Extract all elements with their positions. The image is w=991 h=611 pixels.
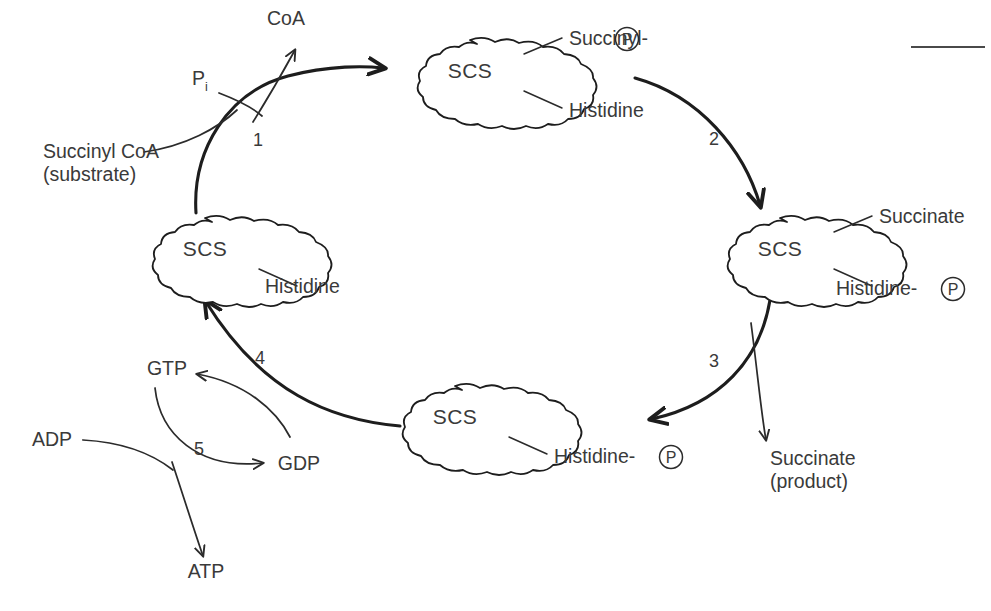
phosphate-letter: P [948, 281, 959, 298]
phosphate-circle-histidine-bottom: P [660, 446, 683, 469]
step-number-3: 3 [709, 351, 719, 371]
succinyl-coa-role-label: (substrate) [43, 163, 136, 185]
step-number-2: 2 [709, 129, 719, 149]
phosphate-letter: P [666, 449, 677, 466]
pi-entry-line [219, 93, 262, 116]
scs-label: SCS [758, 237, 803, 260]
step-number-1: 1 [253, 130, 263, 150]
scs-label: SCS [433, 405, 478, 428]
histidine-phosphate-label-bottom: Histidine- [554, 445, 635, 467]
phosphate-circle-histidine-right: P [942, 278, 965, 301]
succinyl-coa-label: Succinyl CoA [43, 140, 159, 162]
pi-subscript-label: i [205, 80, 208, 94]
atp-release-arrow [172, 462, 203, 556]
histidine-label-top: Histidine [569, 99, 644, 121]
cycle-arc-step-4 [206, 302, 400, 426]
atp-label: ATP [188, 560, 224, 582]
cycle-arc-step-2 [635, 78, 760, 205]
gtp-consumption-arrow [155, 388, 263, 464]
scs-label: SCS [448, 59, 493, 82]
phosphate-letter: P [622, 31, 633, 48]
succinate-label-right: Succinate [879, 205, 965, 227]
gtp-formation-arrow [197, 374, 290, 437]
diagram-canvas: SCS SCS SCS SCS CoA P i Succinyl CoA (su… [0, 0, 991, 611]
succinate-product-label: Succinate [770, 447, 856, 469]
adp-entry-line [83, 440, 173, 470]
inorganic-phosphate-label: P i [192, 67, 208, 94]
succinate-product-role-label: (product) [770, 470, 848, 492]
coa-label: CoA [267, 7, 305, 29]
step-number-5: 5 [194, 439, 204, 459]
pi-base-label: P [192, 67, 205, 89]
histidine-phosphate-label-right: Histidine- [836, 277, 917, 299]
histidine-label-left: Histidine [265, 275, 340, 297]
adp-label: ADP [32, 428, 72, 450]
step-number-4: 4 [255, 348, 265, 368]
gdp-label: GDP [278, 452, 320, 474]
gtp-label: GTP [147, 357, 187, 379]
scs-cycle-diagram: SCS SCS SCS SCS CoA P i Succinyl CoA (su… [0, 0, 991, 611]
scs-label: SCS [183, 237, 228, 260]
cycle-arc-step-1 [196, 67, 383, 213]
